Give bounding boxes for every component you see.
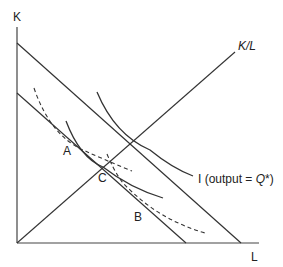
point-c-label: C (98, 171, 107, 185)
y-axis-label: K (13, 10, 21, 24)
capital-labour-ray (17, 52, 235, 243)
point-a-label: A (63, 144, 71, 158)
isoquant-diagram: K L K/L I (output = Q*) A C B (0, 0, 283, 267)
x-axis-label: L (251, 250, 258, 264)
point-b-label: B (134, 210, 142, 224)
dashed-isoquant-a (34, 88, 132, 171)
ray-label: K/L (238, 39, 256, 53)
isoquant-label: I (output = Q*) (198, 172, 274, 186)
tangent-isoquant-curve (66, 121, 163, 198)
dashed-isoquant-b (107, 154, 205, 233)
